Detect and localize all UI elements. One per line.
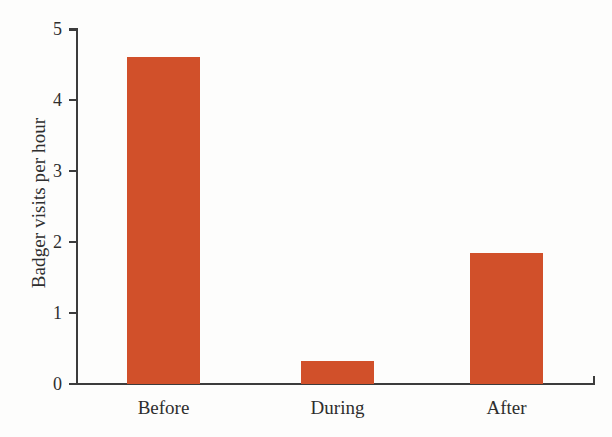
y-axis-line	[76, 29, 78, 385]
y-tick-label: 4	[36, 91, 62, 109]
y-tick-mark	[69, 241, 78, 243]
x-tick-label-during: During	[268, 397, 408, 419]
y-tick-label: 1	[36, 304, 62, 322]
bar-during	[301, 361, 374, 384]
y-tick-mark	[69, 99, 78, 101]
bar-before	[127, 57, 200, 384]
y-tick-mark	[69, 312, 78, 314]
y-tick-mark	[69, 383, 78, 385]
x-axis-right-cap	[593, 376, 595, 385]
y-tick-label: 5	[36, 20, 62, 38]
bar-after	[470, 253, 543, 384]
x-tick-label-after: After	[437, 397, 577, 419]
y-tick-label: 0	[36, 375, 62, 393]
y-tick-label: 2	[36, 233, 62, 251]
y-tick-label: 3	[36, 162, 62, 180]
y-tick-mark	[69, 170, 78, 172]
y-axis-title: Badger visits per hour	[22, 23, 56, 383]
y-tick-mark	[69, 28, 78, 30]
x-tick-label-before: Before	[94, 397, 234, 419]
bar-chart-figure: Badger visits per hour 5 4 3 2 1 0 Befor…	[0, 0, 612, 437]
